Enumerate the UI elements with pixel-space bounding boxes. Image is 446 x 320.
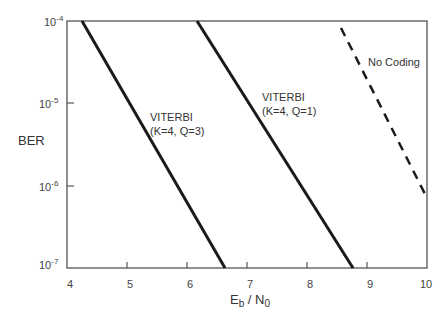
svg-text:VITERBI: VITERBI xyxy=(262,91,305,103)
series-no-coding xyxy=(341,28,427,198)
y-tick-1e-4: 10-4 xyxy=(44,14,64,28)
svg-text:6: 6 xyxy=(187,278,193,290)
x-ticks xyxy=(127,262,367,268)
annotation-no-coding: No Coding xyxy=(368,56,420,68)
svg-text:(K=4, Q=3): (K=4, Q=3) xyxy=(150,125,204,137)
y-tick-1e-7: 10-7 xyxy=(39,257,59,271)
svg-text:VITERBI: VITERBI xyxy=(150,111,193,123)
series-viterbi-q1 xyxy=(197,21,353,268)
annotation-viterbi-q1: VITERBI (K=4, Q=1) xyxy=(262,91,316,117)
svg-text:(K=4, Q=1): (K=4, Q=1) xyxy=(262,105,316,117)
svg-text:5: 5 xyxy=(127,278,133,290)
y-ticks xyxy=(67,103,74,186)
x-axis-title: Eb / N0 xyxy=(230,292,270,309)
ber-chart: 10-4 10-5 10-6 10-7 4 5 6 7 8 9 10 BER E… xyxy=(0,0,446,320)
svg-text:9: 9 xyxy=(367,278,373,290)
svg-text:10: 10 xyxy=(420,278,432,290)
y-tick-1e-6: 10-6 xyxy=(39,179,59,193)
x-tick-labels: 4 5 6 7 8 9 10 xyxy=(67,278,432,290)
series-viterbi-q3 xyxy=(82,21,225,268)
svg-text:No Coding: No Coding xyxy=(368,56,420,68)
annotation-viterbi-q3: VITERBI (K=4, Q=3) xyxy=(150,111,204,137)
y-axis-title: BER xyxy=(18,133,45,148)
y-tick-1e-5: 10-5 xyxy=(39,96,59,110)
svg-text:7: 7 xyxy=(247,278,253,290)
svg-text:8: 8 xyxy=(307,278,313,290)
svg-text:4: 4 xyxy=(67,278,73,290)
